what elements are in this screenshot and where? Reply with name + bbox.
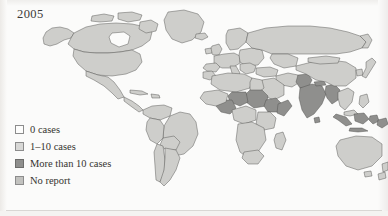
region-hispaniola bbox=[151, 94, 160, 98]
region-eastern-europe bbox=[239, 48, 264, 66]
region-borneo bbox=[354, 113, 369, 124]
region-colombia-venezuela bbox=[143, 105, 172, 120]
region-iberia bbox=[203, 63, 220, 72]
region-bangladesh-myanmar bbox=[325, 84, 340, 104]
legend-swatch-1-10-cases bbox=[15, 142, 24, 151]
region-turkey bbox=[256, 67, 278, 77]
legend-item-more-than-10-cases: More than 10 cases bbox=[15, 155, 150, 172]
legend-swatch-0-cases bbox=[15, 125, 24, 134]
region-indochina bbox=[338, 88, 354, 110]
page-title: 2005 bbox=[17, 7, 44, 22]
region-india bbox=[299, 84, 326, 118]
region-iceland bbox=[195, 33, 208, 40]
region-mongolia bbox=[308, 56, 340, 64]
region-cuba bbox=[130, 90, 148, 95]
legend-item-0-cases: 0 cases bbox=[15, 121, 150, 138]
legend-label-no-report: No report bbox=[30, 175, 71, 186]
region-java bbox=[349, 128, 368, 132]
region-ireland bbox=[205, 48, 212, 54]
figure-panel: 2005 0 cases 1–10 cases More than 10 cas… bbox=[0, 0, 388, 216]
legend-swatch-more-than-10-cases bbox=[15, 159, 24, 168]
region-new-zealand bbox=[382, 162, 388, 172]
legend-swatch-no-report bbox=[15, 176, 24, 185]
scan-edge-bottom bbox=[0, 211, 388, 216]
region-scandinavia bbox=[226, 28, 248, 50]
region-korea bbox=[356, 69, 363, 76]
legend-label-0-cases: 0 cases bbox=[30, 124, 60, 135]
region-balkans bbox=[240, 63, 256, 74]
legend-label-more-than-10-cases: More than 10 cases bbox=[30, 158, 111, 169]
region-central-america bbox=[124, 97, 143, 112]
region-japan bbox=[362, 58, 376, 78]
region-canada-arctic-east bbox=[118, 12, 142, 22]
region-united-kingdom bbox=[210, 44, 222, 55]
region-sri-lanka bbox=[314, 117, 320, 123]
scan-rule-bottom bbox=[6, 210, 382, 211]
region-central-asia bbox=[270, 54, 298, 68]
region-madagascar bbox=[274, 132, 286, 150]
region-australia bbox=[336, 136, 382, 170]
region-philippines bbox=[359, 94, 369, 108]
legend: 0 cases 1–10 cases More than 10 cases No… bbox=[15, 121, 150, 189]
region-algeria-libya bbox=[211, 73, 252, 92]
region-new-zealand-south bbox=[378, 172, 386, 180]
legend-item-no-report: No report bbox=[15, 172, 150, 189]
legend-item-1-10-cases: 1–10 cases bbox=[15, 138, 150, 155]
region-united-states bbox=[73, 49, 142, 76]
region-canada-arctic-west bbox=[91, 14, 114, 22]
legend-label-1-10-cases: 1–10 cases bbox=[30, 141, 76, 152]
region-tasmania bbox=[364, 171, 372, 177]
region-russia bbox=[246, 26, 366, 54]
region-south-africa bbox=[242, 150, 264, 164]
